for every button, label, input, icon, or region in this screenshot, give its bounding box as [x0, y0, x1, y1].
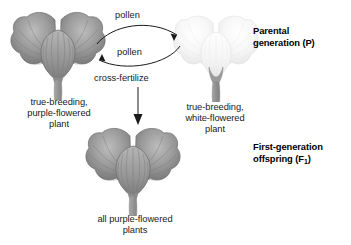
label-f1-generation: First-generation offspring (F1) — [253, 141, 323, 165]
label-f1-prefix: First-generation offspring (F — [253, 141, 323, 164]
label-f1-subscript: 1 — [304, 158, 308, 165]
caption-purple-parent: true-breeding, purple-flowered plant — [4, 97, 114, 131]
pollen-label-bottom: pollen — [117, 47, 142, 57]
caption-f1-offspring: all purple-flowered plants — [70, 214, 200, 236]
label-f1-suffix: ) — [308, 153, 311, 164]
pollen-arrow-right-icon — [97, 25, 177, 44]
diagram-canvas: pollen pollen cross-fertilize true-breed… — [0, 0, 351, 245]
cross-fertilize-label: cross-fertilize — [94, 73, 149, 83]
pollen-label-top: pollen — [115, 10, 140, 20]
caption-white-parent: true-breeding, white-flowered plant — [160, 102, 270, 136]
label-parental-generation: Parental generation (P) — [253, 25, 315, 48]
cross-fertilize-arrow-icon — [134, 87, 143, 125]
